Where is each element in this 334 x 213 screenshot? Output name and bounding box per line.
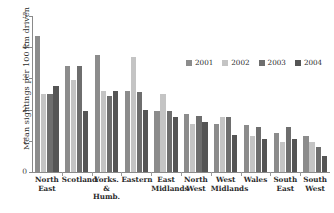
x-axis-label-line: West <box>181 185 211 194</box>
bar <box>101 91 106 172</box>
plot-area: 012345 <box>32 16 330 172</box>
y-tick-label: 2 <box>22 106 27 114</box>
bar-group <box>32 16 62 172</box>
bar <box>113 91 118 172</box>
legend-item[interactable]: 2002 <box>222 59 249 66</box>
y-tick-label: 0 <box>22 168 27 176</box>
bar <box>184 114 189 172</box>
y-tick-label: 5 <box>22 12 27 20</box>
bar <box>244 125 249 172</box>
bar <box>137 92 142 172</box>
bar-group <box>92 16 122 172</box>
legend-item[interactable]: 2004 <box>295 59 322 66</box>
bar-group <box>270 16 300 172</box>
x-axis-label-line: Wales <box>241 176 271 185</box>
x-axis-label: SouthWest <box>300 176 330 193</box>
x-axis-labels: NorthEastScotlandYorks.&Humb.EasternEast… <box>32 176 330 213</box>
bar <box>143 110 148 172</box>
legend-swatch-icon <box>186 60 192 66</box>
bar <box>125 91 130 172</box>
bar <box>220 117 225 172</box>
legend: 2001200220032004 <box>186 59 322 66</box>
bar <box>274 133 279 172</box>
bar <box>256 127 261 172</box>
bar <box>226 117 231 172</box>
bar <box>196 116 201 172</box>
bar <box>95 55 100 172</box>
bar <box>154 111 159 172</box>
bar-group <box>151 16 181 172</box>
bar <box>280 142 285 172</box>
legend-label: 2002 <box>231 59 249 66</box>
legend-label: 2004 <box>304 59 322 66</box>
bar-group <box>181 16 211 172</box>
bar <box>131 57 136 172</box>
y-tick-mark <box>29 172 32 173</box>
bar <box>71 80 76 172</box>
x-axis-label: Wales <box>241 176 271 185</box>
bar-group <box>62 16 92 172</box>
x-axis-label-line: Midlands <box>151 185 181 194</box>
x-axis-label: Yorks.&Humb. <box>92 176 122 202</box>
legend-label: 2001 <box>195 59 213 66</box>
bar <box>250 136 255 172</box>
bar-group <box>211 16 241 172</box>
bar <box>65 66 70 172</box>
x-axis-label-line: West <box>300 185 330 194</box>
x-axis-label-line: East <box>32 185 62 194</box>
bar <box>214 124 219 172</box>
bar <box>232 135 237 172</box>
x-axis-label: SouthEast <box>270 176 300 193</box>
bar <box>35 36 40 172</box>
bar-group <box>241 16 271 172</box>
x-axis-label-line: Midlands <box>211 185 241 194</box>
bar <box>286 127 291 172</box>
bar-group <box>300 16 330 172</box>
bar <box>160 94 165 172</box>
y-tick-label: 4 <box>22 43 27 51</box>
legend-swatch-icon <box>222 60 228 66</box>
legend-item[interactable]: 2003 <box>259 59 286 66</box>
x-axis-label-line: Eastern <box>121 176 151 185</box>
x-axis-label: WestMidlands <box>211 176 241 193</box>
x-axis-label: EastMidlands <box>151 176 181 193</box>
bar <box>107 96 112 172</box>
x-axis-label: NorthWest <box>181 176 211 193</box>
y-tick-label: 3 <box>22 75 27 83</box>
bar <box>77 66 82 172</box>
legend-label: 2003 <box>268 59 286 66</box>
legend-swatch-icon <box>259 60 265 66</box>
bar <box>53 86 58 172</box>
bar <box>309 142 314 172</box>
y-tick-label: 1 <box>22 137 27 145</box>
x-axis-label-line: Humb. <box>92 193 122 202</box>
bar <box>47 94 52 172</box>
bar <box>262 139 267 172</box>
bars-layer <box>32 16 330 172</box>
bar-chart: Mean sightings per 100 km driven 012345 … <box>0 0 334 213</box>
bar <box>202 122 207 172</box>
x-axis-label-line: East <box>270 185 300 194</box>
x-axis-label: NorthEast <box>32 176 62 193</box>
bar <box>322 156 327 172</box>
bar <box>41 94 46 172</box>
bar-group <box>121 16 151 172</box>
bar <box>190 124 195 172</box>
bar <box>292 139 297 172</box>
bar <box>303 136 308 172</box>
x-axis-label-line: Scotland <box>62 176 92 185</box>
bar <box>316 147 321 172</box>
legend-item[interactable]: 2001 <box>186 59 213 66</box>
x-axis-label: Eastern <box>121 176 151 185</box>
bar <box>173 117 178 172</box>
legend-swatch-icon <box>295 60 301 66</box>
bar <box>83 111 88 172</box>
bar <box>167 111 172 172</box>
x-axis-label: Scotland <box>62 176 92 185</box>
